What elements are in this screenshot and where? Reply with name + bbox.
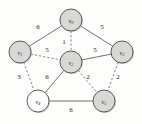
graph-figure: v0v1v2v3v4v5 6515536226 — [0, 0, 142, 124]
graph-canvas: v0v1v2v3v4v5 6515536226 — [0, 0, 142, 124]
node-circle-v5[interactable] — [93, 90, 115, 112]
node-v0[interactable]: v0 — [60, 9, 83, 32]
edge-v1-v2 — [31, 54, 60, 60]
node-v5[interactable]: v5 — [93, 90, 116, 113]
edge-weight-v3-v5: 2 — [116, 73, 120, 81]
node-circle-v3[interactable] — [111, 41, 133, 63]
edge-weight-v0-v3: 5 — [100, 23, 104, 31]
edge-v2-v3 — [82, 54, 111, 60]
edge-v0-v3 — [80, 26, 112, 46]
nodes-layer: v0v1v2v3v4v5 — [9, 9, 134, 113]
node-circle-v1[interactable] — [9, 41, 31, 63]
node-circle-v0[interactable] — [60, 9, 82, 31]
node-circle-v2[interactable] — [60, 51, 82, 73]
edge-weight-v2-v4: 6 — [45, 73, 49, 81]
node-v3[interactable]: v3 — [111, 41, 134, 64]
edge-weight-v0-v2: 1 — [62, 38, 66, 46]
edge-weight-v2-v3: 5 — [93, 46, 97, 54]
node-v2[interactable]: v2 — [60, 51, 83, 74]
node-circle-v4[interactable] — [27, 90, 49, 112]
edge-weight-v1-v2: 5 — [45, 46, 49, 54]
edge-weight-v1-v4: 3 — [17, 73, 21, 81]
edge-v1-v4 — [24, 62, 34, 90]
node-v1[interactable]: v1 — [9, 41, 32, 64]
edge-v0-v1 — [29, 26, 61, 46]
edge-weight-v2-v5: 2 — [86, 73, 90, 81]
edge-weight-v4-v5: 6 — [69, 106, 73, 114]
node-v4[interactable]: v4 — [27, 90, 50, 113]
edge-weight-v0-v1: 6 — [36, 23, 40, 31]
